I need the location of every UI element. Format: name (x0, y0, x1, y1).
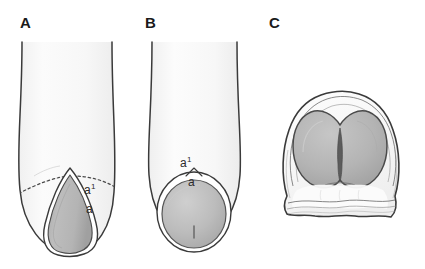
panel-a-label-a: a (86, 202, 93, 216)
panel-b-label-a: a (188, 175, 195, 189)
panel-c-illustration (255, 0, 425, 269)
panel-b: B (130, 0, 260, 269)
panel-a-label-a1: a (84, 183, 91, 197)
panel-b-illustration: a 1 a (130, 0, 260, 269)
panel-c: C (255, 0, 425, 269)
figure-root: A (0, 0, 425, 269)
panel-b-label-a1: a (180, 156, 187, 170)
panel-b-label-a1-superscript: 1 (187, 155, 192, 164)
panel-a: A (0, 0, 140, 269)
panel-a-illustration: a 1 a (0, 0, 140, 269)
panel-c-lower-mass (292, 185, 388, 209)
panel-c-central-cleft (338, 128, 343, 182)
panel-a-label-a1-superscript: 1 (91, 182, 96, 191)
